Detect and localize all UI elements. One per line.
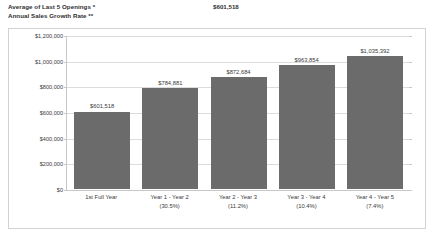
x-axis-label-period: Year 4 - Year 5 [356,194,394,200]
bar-value-label: $1,035,392 [360,48,389,55]
y-axis-tick-mark-right [409,164,412,165]
y-axis-tick-label: $400,000 [40,136,63,142]
bar[interactable] [74,112,130,189]
bar[interactable] [347,56,403,189]
bar-series: $601,518$784,881$872,684$963,854$1,035,3… [68,36,409,189]
bar[interactable] [211,77,267,189]
x-axis-label-growth-rate: (10.4%) [272,202,340,211]
x-axis-labels: 1st Full YearYear 1 - Year 2(30.5%)Year … [67,193,409,210]
x-axis-label-growth-rate: (30.5%) [135,202,203,211]
report-title-line1: Average of Last 5 Openings * [8,3,95,10]
x-axis-label-growth-rate: (7.4%) [341,202,409,211]
y-axis-tick-mark [64,62,67,63]
y-axis-tick-mark [64,113,67,114]
x-axis-label: Year 1 - Year 2(30.5%) [135,193,203,210]
y-axis-tick-mark-right [409,36,412,37]
report-title: Average of Last 5 Openings * Annual Sale… [8,2,95,20]
x-axis-label-period: Year 1 - Year 2 [151,194,189,200]
y-axis-tick-label: $800,000 [40,84,63,90]
bar[interactable] [142,88,198,189]
y-axis-tick-mark [64,139,67,140]
y-axis-tick-mark-right [409,87,412,88]
y-axis-tick-mark [64,190,67,191]
report-header: Average of Last 5 Openings * Annual Sale… [0,0,434,26]
bar-slot: $784,881 [136,36,204,189]
x-axis-label-period: Year 2 - Year 3 [219,194,257,200]
y-axis-tick-mark-right [409,139,412,140]
y-axis-tick-mark-right [409,113,412,114]
x-axis-label-growth-rate: (11.2%) [204,202,272,211]
bar-value-label: $872,684 [226,69,250,76]
bar-chart: $1,200,000$1,000,000$800,000$600,000$400… [8,28,426,229]
bar-slot: $872,684 [204,36,272,189]
report-header-value: $601,518 [213,2,239,11]
bar[interactable] [279,65,335,189]
y-axis-tick-mark-right [409,62,412,63]
gridline [67,190,409,191]
plot-area: $1,200,000$1,000,000$800,000$600,000$400… [66,36,409,191]
bar-slot: $963,854 [273,36,341,189]
x-axis-label-period: Year 3 - Year 4 [287,194,325,200]
bar-slot: $601,518 [68,36,136,189]
bar-value-label: $963,854 [295,57,319,64]
y-axis-tick-mark [64,87,67,88]
bar-slot: $1,035,392 [341,36,409,189]
y-axis-tick-mark [64,36,67,37]
bar-value-label: $601,518 [90,103,114,110]
y-axis-tick-label: $600,000 [40,110,63,116]
y-axis-tick-label: $1,200,000 [35,33,63,39]
x-axis-label: Year 3 - Year 4(10.4%) [272,193,340,210]
x-axis-label: 1st Full Year [67,193,135,210]
x-axis-label: Year 2 - Year 3(11.2%) [204,193,272,210]
report-title-line2: Annual Sales Growth Rate ** [8,11,95,20]
y-axis-tick-mark-right [409,190,412,191]
x-axis-label-period: 1st Full Year [85,194,117,200]
y-axis-tick-label: $200,000 [40,161,63,167]
y-axis-tick-label: $1,000,000 [35,59,63,65]
x-axis-label: Year 4 - Year 5(7.4%) [341,193,409,210]
y-axis-tick-label: $0 [57,187,63,193]
bar-value-label: $784,881 [158,80,182,87]
y-axis-tick-mark [64,164,67,165]
